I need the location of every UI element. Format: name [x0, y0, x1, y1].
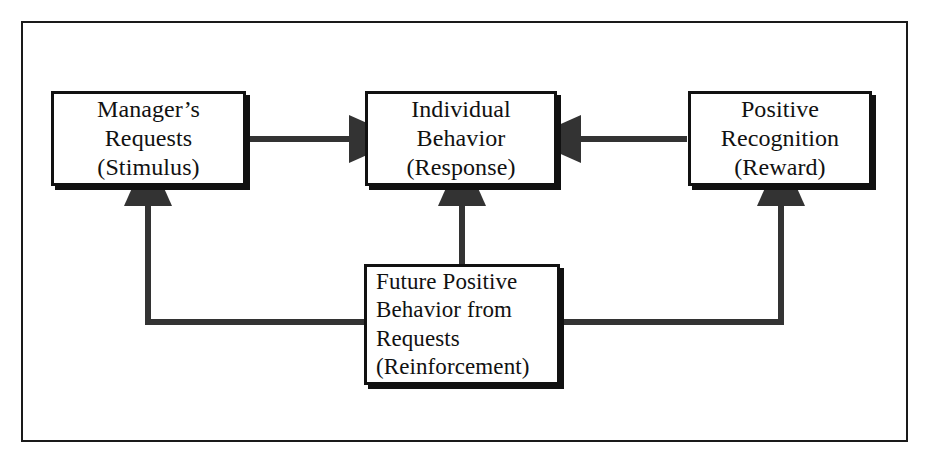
node-line: Individual [368, 95, 554, 124]
node-line: Behavior [368, 124, 554, 153]
node-line: (Reinforcement) [376, 353, 557, 381]
node-line: Manager’s [54, 95, 243, 124]
connector-layer [0, 0, 927, 461]
node-line: Future Positive [376, 268, 557, 296]
node-line: Positive [691, 95, 869, 124]
diagram-canvas: Manager’s Requests (Stimulus) Individual… [0, 0, 927, 461]
connector-reinforcement-to-reward [560, 200, 781, 322]
node-individual-behavior[interactable]: Individual Behavior (Response) [365, 91, 557, 186]
connector-reinforcement-to-stimulus [148, 200, 364, 322]
node-line: (Response) [368, 153, 554, 182]
node-line: Requests [376, 325, 557, 353]
node-managers-requests[interactable]: Manager’s Requests (Stimulus) [51, 91, 246, 186]
node-line: Recognition [691, 124, 869, 153]
node-line: (Stimulus) [54, 153, 243, 182]
node-line: Requests [54, 124, 243, 153]
node-future-positive-behavior[interactable]: Future Positive Behavior from Requests (… [364, 264, 560, 385]
node-positive-recognition[interactable]: Positive Recognition (Reward) [688, 91, 872, 186]
node-line: (Reward) [691, 153, 869, 182]
node-line: Behavior from [376, 296, 557, 324]
